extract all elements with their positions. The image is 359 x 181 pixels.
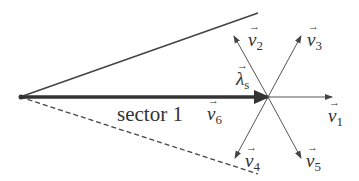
v1-label: →v1 [328,106,343,128]
v3-label: →v3 [307,30,322,52]
sector-upper-boundary [20,13,258,97]
v6-label: →v6 [207,104,222,126]
flux-vector-label: →λs [236,69,249,91]
v5-label: →v5 [306,151,321,173]
v5-arrow [268,97,301,158]
v2-label: →v2 [248,30,263,52]
origin-dot [19,95,24,100]
sector-label: sector 1 [117,104,183,125]
v4-label: →v4 [245,151,260,173]
v3-arrow [268,36,301,97]
